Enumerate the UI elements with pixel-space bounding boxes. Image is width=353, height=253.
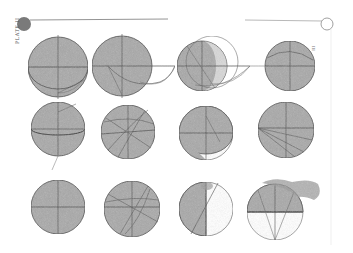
plate-svg — [0, 0, 353, 253]
figure-8 — [258, 102, 314, 158]
plate-side-label: III — [311, 46, 316, 51]
figure-12 — [247, 179, 320, 240]
figure-5 — [31, 102, 85, 170]
figure-9 — [31, 180, 85, 234]
figure-10 — [104, 181, 160, 237]
figure-11 — [179, 182, 233, 236]
figure-6 — [101, 105, 155, 159]
figure-4 — [250, 41, 315, 91]
engraved-plate: PLATE II III — [0, 0, 353, 253]
figure-2 — [92, 34, 175, 98]
figure-1 — [28, 35, 88, 99]
figure-3 — [177, 36, 250, 91]
figure-7 — [179, 106, 233, 160]
plate-label: PLATE II — [14, 17, 20, 44]
